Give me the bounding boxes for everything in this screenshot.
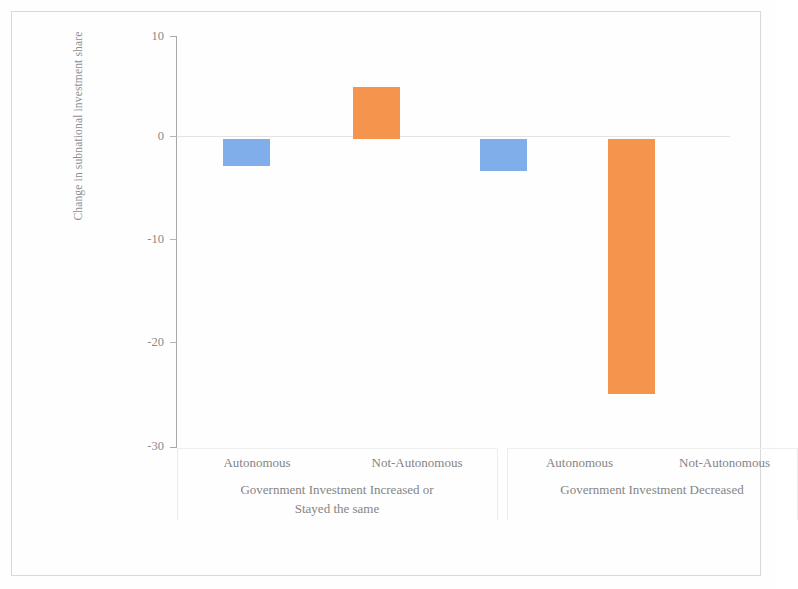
y-axis-title: Change in subnational investment share [72, 0, 84, 256]
y-tick-label-neg10: -10 [116, 233, 164, 246]
category-label-group2-not-autonomous: Not-Autonomous [652, 448, 797, 478]
category-label-group1-autonomous: Autonomous [177, 448, 337, 478]
group-label-line2: Stayed the same [295, 501, 379, 516]
group-label-decreased: Government Investment Decreased [507, 478, 797, 520]
bar-group2-autonomous [480, 139, 527, 171]
y-axis-top-cap [170, 36, 177, 37]
y-tick-label-neg30: -30 [116, 440, 164, 453]
y-axis-bottom-cap [170, 447, 177, 448]
group-label-band: Government Investment Increased or Staye… [177, 478, 677, 520]
category-label-band: Autonomous Not-Autonomous Autonomous Not… [177, 448, 677, 478]
y-tick-label-neg20: -20 [116, 336, 164, 349]
category-label-group1-not-autonomous: Not-Autonomous [337, 448, 497, 478]
y-tick-mark-neg20 [170, 342, 177, 343]
y-tick-mark-0 [170, 136, 177, 137]
y-tick-mark-neg10 [170, 239, 177, 240]
y-tick-label-0: 0 [116, 130, 164, 143]
bar-group1-not-autonomous [353, 87, 400, 138]
group-label-line1: Government Investment Increased or [240, 482, 433, 497]
group-label-line1: Government Investment Decreased [560, 481, 743, 500]
bar-group1-autonomous [223, 139, 270, 167]
y-tick-label-10: 10 [116, 30, 164, 43]
bar-group2-not-autonomous [608, 139, 655, 394]
plot-area [177, 36, 677, 447]
y-axis-tick-labels: 10 0 -10 -20 -30 [112, 0, 164, 589]
category-label-group2-autonomous: Autonomous [507, 448, 652, 478]
group-label-increased-or-same: Government Investment Increased or Staye… [177, 478, 497, 520]
